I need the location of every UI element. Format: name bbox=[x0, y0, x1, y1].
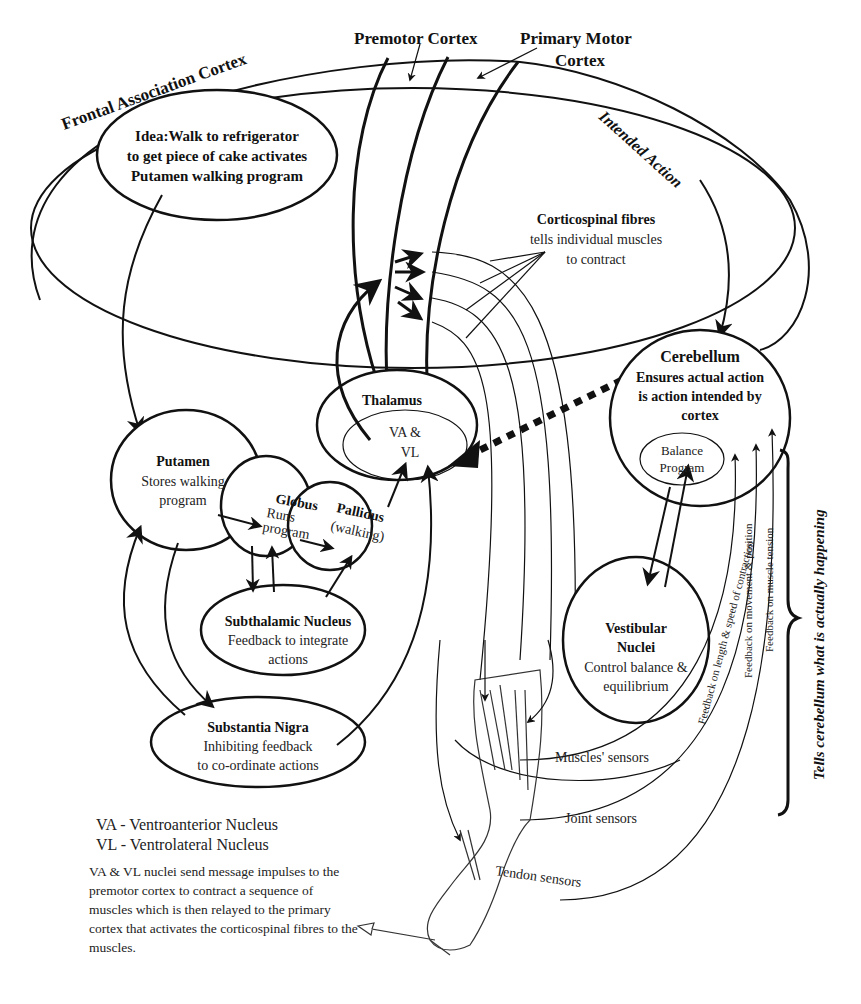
idea-line-3: Putamen walking program bbox=[131, 168, 304, 184]
subthalamic-line-1: Feedback to integrate bbox=[228, 633, 349, 648]
premotor-band-right bbox=[386, 57, 448, 398]
substantia-nigra-line-2: to co-ordinate actions bbox=[197, 758, 318, 773]
putamen-title: Putamen bbox=[156, 454, 210, 469]
feedback-muscle-tension-label: Feedback on muscle tension bbox=[763, 527, 775, 652]
vestibular-line-2: equilibrium bbox=[603, 679, 668, 694]
corticospinal-title: Corticospinal fibres bbox=[537, 212, 656, 227]
vestibular-title-1: Vestibular bbox=[605, 621, 667, 636]
legend: VA - Ventroanterior Nucleus VL - Ventrol… bbox=[96, 815, 278, 855]
note-pointer-arrow bbox=[358, 923, 435, 940]
idea-line-1: Idea:Walk to refrigerator bbox=[135, 128, 299, 144]
idea-to-putamen-arrow bbox=[123, 195, 162, 432]
leg-illustration bbox=[427, 670, 542, 955]
vestibular-line-1: Control balance & bbox=[584, 660, 688, 675]
primary-motor-cortex-label-1: Primary Motor bbox=[520, 29, 632, 48]
putamen-line-1: Stores walking bbox=[141, 474, 225, 489]
nigra-putamen-arrow bbox=[124, 528, 185, 715]
putamen-line-2: program bbox=[159, 493, 207, 508]
arrow-to-muscles-3 bbox=[436, 640, 460, 840]
cerebellum-to-thalamus-dashed bbox=[470, 380, 622, 455]
cerebellum-line-2: is action intended by bbox=[638, 389, 761, 404]
cerebellum-title: Cerebellum bbox=[660, 348, 740, 365]
va-vl-line-1: VA & bbox=[389, 425, 421, 440]
globus-subthalamic-arrow bbox=[252, 546, 253, 590]
muscles-sensors-label: Muscles' sensors bbox=[555, 750, 649, 765]
corticospinal-line-2: to contract bbox=[566, 252, 626, 267]
primary-motor-cortex-label-2: Cortex bbox=[555, 51, 606, 70]
tendon-sensors-label: Tendon sensors bbox=[495, 863, 583, 890]
premotor-cortex-label: Premotor Cortex bbox=[354, 29, 478, 48]
cerebellum-line-1: Ensures actual action bbox=[636, 370, 764, 385]
primary-motor-band bbox=[427, 62, 518, 398]
substantia-nigra-title: Substantia Nigra bbox=[207, 720, 309, 735]
subthalamic-title: Subthalamic Nucleus bbox=[225, 614, 352, 629]
intended-action-label: Intended Action bbox=[595, 107, 686, 191]
va-vl-line-2: VL bbox=[401, 445, 420, 460]
idea-line-2: to get piece of cake activates bbox=[127, 148, 308, 164]
premotor-band-left bbox=[353, 58, 388, 398]
intended-action-arrow bbox=[700, 180, 729, 335]
thalamus-title: Thalamus bbox=[362, 393, 422, 408]
cerebellum-line-3: cortex bbox=[681, 408, 718, 423]
subthalamic-line-2: actions bbox=[268, 652, 308, 667]
legend-va: VA - Ventroanterior Nucleus bbox=[96, 815, 278, 835]
vestibular-title-2: Nuclei bbox=[617, 640, 655, 655]
va-vl-explanation-note: VA & VL nuclei send message impulses to … bbox=[89, 862, 359, 957]
corticospinal-arrows bbox=[395, 254, 422, 318]
substantia-nigra-line-1: Inhibiting feedback bbox=[203, 739, 312, 754]
brace-label: Tells cerebellum what is actually happen… bbox=[811, 509, 827, 780]
legend-vl: VL - Ventrolateral Nucleus bbox=[96, 835, 278, 855]
corticospinal-line-1: tells individual muscles bbox=[530, 232, 662, 247]
joint-sensors-label: Joint sensors bbox=[565, 811, 637, 826]
balance-program-line-1: Balance bbox=[661, 443, 703, 458]
feedback-brace bbox=[778, 450, 798, 815]
balance-program-line-2: Program bbox=[660, 460, 705, 475]
feedback-movement-position-label: Feedback on movement & position bbox=[742, 523, 754, 678]
